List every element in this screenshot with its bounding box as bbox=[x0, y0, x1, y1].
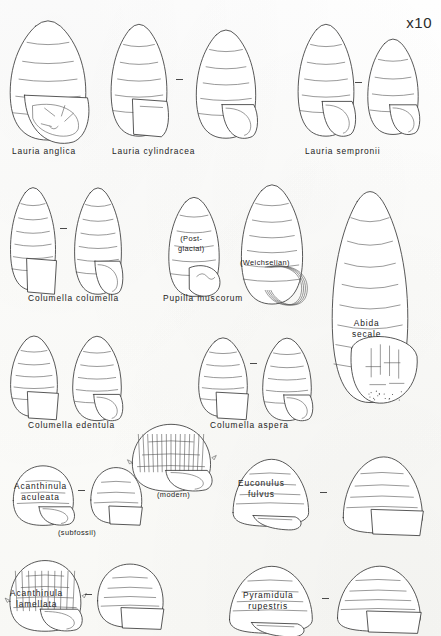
specimen-group-pyramidula-rupestris: Pyramidularupestris bbox=[0, 0, 441, 636]
species-label-line: rupestris bbox=[243, 601, 293, 612]
pair-connector-pyramidula-rupestris bbox=[322, 598, 329, 599]
species-label-line: Pyramidula bbox=[243, 590, 293, 601]
illustration-plate: x10 Lauria anglicaLauria cylindraceaLaur… bbox=[0, 0, 441, 636]
species-label-pyramidula-rupestris: Pyramidularupestris bbox=[243, 590, 293, 611]
pyramidula-rupestris-view-2 bbox=[332, 562, 424, 632]
shell-pyramidula-rupestris-view-2 bbox=[332, 562, 424, 632]
